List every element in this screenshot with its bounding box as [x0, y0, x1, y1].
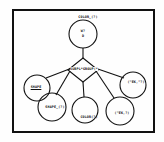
diagram-graphics: [0, 0, 164, 142]
color-q-node-label: COLOR(?): [80, 115, 97, 119]
shape-node-label: SHAPE: [31, 85, 42, 89]
ek-q2-node-label: ("EK,?): [115, 111, 130, 115]
top-node-inner-line1: W?: [81, 29, 85, 33]
ek-q1-node-label: ("EK,"?): [127, 80, 144, 84]
top-node-inner-line2: D: [82, 34, 84, 38]
relation-label: SUBPL*GROUP(*: [70, 67, 98, 71]
color-q-circle: [72, 97, 98, 123]
top-node-label: COLOR_(?): [78, 15, 97, 19]
shape-q-node-label: SHAPE_(?): [45, 105, 64, 109]
ek-q1-circle: [120, 72, 146, 98]
